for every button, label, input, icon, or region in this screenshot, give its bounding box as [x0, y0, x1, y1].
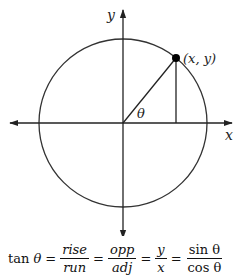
fraction-rise-run: rise run [60, 242, 89, 275]
y-axis-label: y [106, 7, 116, 23]
fraction-denominator: run [61, 259, 88, 275]
point-xy [172, 54, 180, 62]
tan-function: tan [8, 251, 29, 266]
fraction-numerator: rise [60, 242, 89, 259]
radius-line [123, 58, 176, 123]
fraction-numerator: sin θ [187, 242, 222, 259]
fraction-denominator: adj [110, 259, 134, 275]
fraction-denominator: x [155, 259, 166, 275]
tangent-formula: tan θ = rise run = opp adj = y x = sin θ… [8, 236, 238, 280]
fraction-sin-cos: sin θ cos θ [186, 242, 224, 275]
x-axis-label: x [225, 127, 233, 143]
equals-sign: = [45, 251, 56, 266]
angle-label: θ [137, 106, 145, 121]
fraction-opp-adj: opp adj [108, 242, 136, 275]
unit-circle-diagram: y x (x, y) θ [0, 0, 239, 236]
point-label: (x, y) [183, 51, 216, 66]
fraction-y-x: y x [155, 242, 166, 275]
theta-symbol: θ [34, 251, 42, 266]
fraction-numerator: y [155, 242, 166, 259]
fraction-denominator: cos θ [186, 259, 224, 275]
equals-sign: = [93, 251, 104, 266]
fraction-numerator: opp [108, 242, 136, 259]
equals-sign: = [140, 251, 151, 266]
equals-sign: = [171, 251, 182, 266]
